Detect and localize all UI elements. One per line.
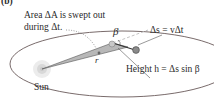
area-label-line1: Area ΔA is swept out bbox=[24, 10, 105, 20]
ds-label: Δs = vΔt bbox=[150, 25, 183, 35]
planet-icon bbox=[133, 47, 140, 54]
sun-label: Sun bbox=[34, 82, 49, 92]
r-label: r bbox=[95, 55, 99, 65]
height-label: Height h = Δs sin β bbox=[126, 64, 200, 74]
area-label-line2: during Δt. bbox=[24, 22, 62, 32]
panel-label: (b) bbox=[1, 0, 13, 6]
planet-start bbox=[109, 41, 115, 47]
swept-area-wedge bbox=[42, 43, 128, 69]
area-leader bbox=[66, 30, 96, 48]
beta-label: β bbox=[113, 26, 118, 36]
r-marker bbox=[98, 52, 101, 55]
ds-leader bbox=[138, 35, 162, 45]
